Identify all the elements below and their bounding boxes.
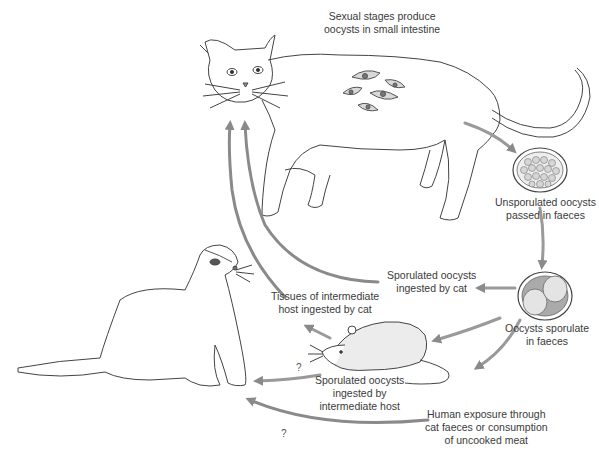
intestinal-stages-illustration	[343, 71, 405, 111]
ferret-illustration	[18, 245, 254, 386]
label-ingested-by-cat: Sporulated oocysts ingested by cat	[387, 269, 476, 295]
label-sexual-stages: Sexual stages produce oocysts in small i…	[324, 10, 440, 36]
life-cycle-artwork	[0, 0, 599, 455]
unsporulated-oocyst	[513, 148, 567, 192]
question-mark-upper: ?	[296, 362, 302, 373]
label-tissues-intermediate-host: Tissues of intermediate host ingested by…	[271, 290, 379, 316]
cat-illustration	[200, 35, 590, 220]
question-mark-lower: ?	[281, 428, 287, 439]
label-oocysts-sporulate: Oocysts sporulate in faeces	[505, 322, 589, 348]
sporulated-oocyst	[518, 272, 572, 320]
label-ingested-intermediate-host: Sporulated oocysts ingested by intermedi…	[315, 374, 404, 413]
label-human-exposure: Human exposure through cat faeces or con…	[425, 408, 548, 447]
label-unsporulated-oocysts: Unsporulated oocysts passed in faeces	[495, 196, 596, 222]
